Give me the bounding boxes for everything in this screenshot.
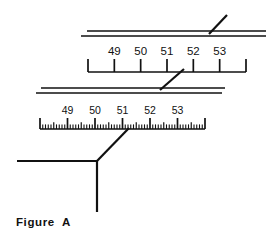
rail-lines-group	[36, 31, 266, 93]
callout-pointer-group	[17, 161, 97, 212]
figure-drawing: 4950515253 4950515253	[0, 0, 277, 248]
scale-tick-label: 51	[161, 45, 174, 57]
scale-tick-label: 50	[89, 104, 101, 116]
bottom-scale-group: 4950515253	[40, 104, 205, 129]
figure-caption: Figure A	[16, 216, 71, 228]
scale-tick-label: 53	[213, 45, 226, 57]
scale-tick-label: 50	[134, 45, 147, 57]
scale-tick-label: 51	[117, 104, 129, 116]
bottom-leader	[97, 128, 129, 161]
top-scale-group: 4950515253	[88, 45, 246, 72]
scale-tick-label: 49	[62, 104, 74, 116]
scale-tick-label: 52	[187, 45, 200, 57]
figure-container: 4950515253 4950515253 Figure A	[0, 0, 277, 248]
scale-tick-label: 49	[108, 45, 121, 57]
scale-tick-label: 53	[172, 104, 184, 116]
scale-tick-label: 52	[144, 104, 156, 116]
